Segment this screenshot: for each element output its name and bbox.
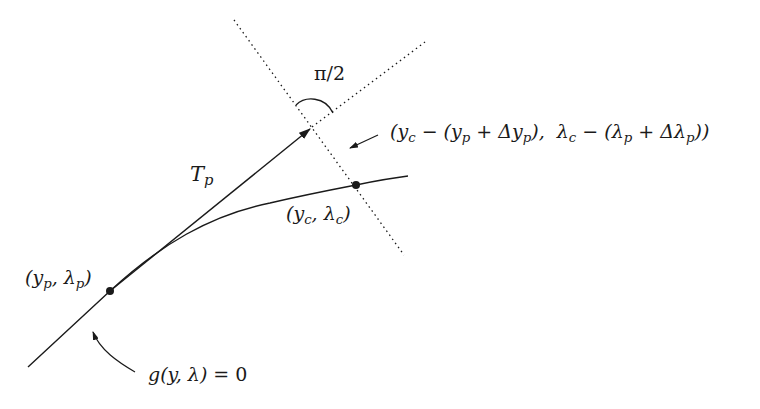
tangent-label-sub: p [204,171,213,188]
angle-label: π/2 [314,64,345,83]
corrected-point-dot [352,181,360,189]
correction-pointer-arrow [350,135,378,148]
tangent-extension-dotted-line [312,42,425,127]
tangent-arrow [110,129,310,291]
corrected-point-label: (yc, λc) [286,204,351,226]
right-angle-arc [296,99,333,113]
diagram-canvas: π/2 Tp (yc − (yp + Δyp), λc − (λp + Δλp)… [0,0,760,409]
tangent-label: Tp [190,164,213,188]
correction-vector-label: (yc − (yp + Δyp), λc − (λp + Δλp)) [390,122,709,144]
predicted-point-dot [106,287,114,295]
tangent-label-main: T [190,162,204,186]
diagram-svg [0,0,760,409]
curve-equation-label: g(y, λ) = 0 [148,365,247,384]
predicted-point-label: (yp, λp) [25,268,92,290]
curve-pointer-arrow [93,332,135,372]
